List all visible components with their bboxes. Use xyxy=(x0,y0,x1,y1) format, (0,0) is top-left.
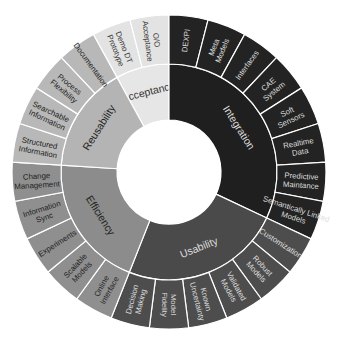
label-predictive-maintance: PredictiveMaintance xyxy=(283,171,320,191)
center-hole xyxy=(117,120,221,224)
sunburst-chart: AcceptanceIntegrationUsabilityEfficiency… xyxy=(0,0,337,341)
label-model-fidelity: ModelFidelity xyxy=(160,292,178,317)
